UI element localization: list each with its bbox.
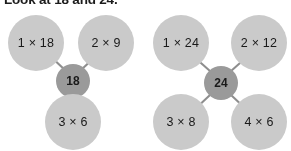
factor-node-label: 2 × 12 (241, 36, 277, 50)
factor-node-2x9: 2 × 9 (78, 15, 134, 71)
factor-diagram-page: Look at 18 and 24. 1 × 18 2 × 9 18 3 × 6 (0, 0, 291, 151)
factor-node-1x18: 1 × 18 (8, 15, 64, 71)
product-node-24: 24 (204, 66, 238, 100)
factor-diagram-24: 1 × 24 2 × 12 24 3 × 8 4 × 6 (150, 0, 291, 151)
factor-node-3x6: 3 × 6 (45, 94, 101, 150)
factor-node-4x6: 4 × 6 (231, 94, 287, 150)
factor-diagram-18: 1 × 18 2 × 9 18 3 × 6 (0, 0, 145, 151)
product-node-label: 18 (66, 74, 80, 88)
product-node-label: 24 (214, 76, 228, 90)
factor-node-label: 2 × 9 (91, 36, 120, 50)
factor-node-label: 3 × 6 (58, 115, 87, 129)
factor-node-label: 1 × 18 (18, 36, 54, 50)
factor-node-label: 3 × 8 (166, 115, 195, 129)
factor-node-label: 4 × 6 (244, 115, 273, 129)
factor-node-2x12: 2 × 12 (231, 15, 287, 71)
factor-node-1x24: 1 × 24 (153, 15, 209, 71)
factor-node-label: 1 × 24 (163, 36, 199, 50)
product-node-18: 18 (56, 64, 90, 98)
factor-node-3x8: 3 × 8 (153, 94, 209, 150)
